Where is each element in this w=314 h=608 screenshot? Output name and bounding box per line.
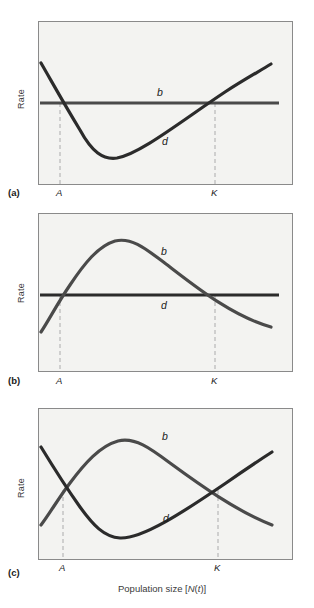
panel-a-curves bbox=[0, 0, 314, 200]
x-axis-label-tail: )] bbox=[200, 583, 206, 594]
panel-c-label-b: b bbox=[162, 430, 168, 442]
panel-c: Rate b d A K (c) Population size [N(t)] bbox=[0, 395, 314, 608]
panel-c-letter: (c) bbox=[8, 567, 20, 578]
panel-b-tick-A: A bbox=[56, 375, 62, 386]
panel-b-label-d: d bbox=[161, 299, 167, 311]
figure-root: Rate b d A K (a) Rate b d bbox=[0, 0, 314, 608]
x-axis-label: Population size [N(t)] bbox=[118, 583, 206, 594]
panel-c-curves bbox=[0, 395, 314, 608]
panel-a-tick-A: A bbox=[56, 187, 62, 198]
x-axis-label-var-n: N bbox=[188, 583, 195, 594]
panel-b-curve-b bbox=[41, 240, 271, 332]
panel-b-label-b: b bbox=[161, 245, 167, 257]
panel-a-label-b: b bbox=[157, 86, 163, 98]
panel-c-curve-d bbox=[41, 447, 272, 538]
panel-b-tick-K: K bbox=[211, 375, 217, 386]
panel-a-letter: (a) bbox=[8, 187, 20, 198]
x-axis-label-text-lead: Population size [ bbox=[118, 583, 188, 594]
panel-c-tick-A: A bbox=[59, 562, 65, 573]
panel-a-curve-d bbox=[41, 63, 271, 158]
panel-c-curve-b bbox=[41, 440, 272, 525]
panel-b: Rate b d A K (b) bbox=[0, 200, 314, 395]
panel-a-label-d: d bbox=[162, 135, 168, 147]
panel-b-curves bbox=[0, 200, 314, 395]
panel-b-letter: (b) bbox=[8, 375, 20, 386]
panel-a: Rate b d A K (a) bbox=[0, 0, 314, 200]
panel-c-label-d: d bbox=[163, 512, 169, 524]
panel-c-tick-K: K bbox=[214, 562, 220, 573]
panel-a-tick-K: K bbox=[211, 187, 217, 198]
